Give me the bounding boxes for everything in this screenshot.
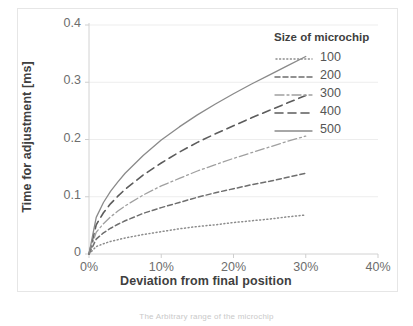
series-line-100 (89, 215, 306, 254)
series-line-300 (89, 136, 306, 254)
x-tick-label: 30% (284, 260, 328, 274)
legend-entries: 100200300400500 (274, 48, 392, 138)
legend-label-400: 400 (314, 104, 341, 118)
x-tick-label: 0% (67, 260, 111, 274)
figure: Time for adjustment [ms] Deviation from … (0, 0, 413, 326)
legend-entry-200[interactable]: 200 (274, 66, 392, 84)
legend-swatch-400 (274, 105, 314, 117)
y-tick-label: 0 (47, 245, 81, 259)
y-tick-label: 0.2 (47, 131, 81, 145)
legend-entry-500[interactable]: 500 (274, 120, 392, 138)
x-axis-title: Deviation from final position (120, 274, 390, 288)
legend-swatch-200 (274, 69, 314, 81)
series-line-200 (89, 173, 306, 254)
y-tick-label: 0.4 (47, 16, 81, 30)
legend-label-300: 300 (314, 86, 341, 100)
y-tick-label: 0.3 (47, 73, 81, 87)
legend-entry-100[interactable]: 100 (274, 48, 392, 66)
figure-caption: The Arbitrary range of the microchip (0, 312, 413, 326)
legend-label-500: 500 (314, 122, 341, 136)
legend-entry-400[interactable]: 400 (274, 102, 392, 120)
legend-swatch-500 (274, 123, 314, 135)
y-axis-title: Time for adjustment [ms] (20, 42, 34, 232)
x-tick-label: 20% (212, 260, 256, 274)
legend-swatch-300 (274, 87, 314, 99)
legend-swatch-100 (274, 51, 314, 63)
legend-title: Size of microchip (274, 31, 392, 43)
legend: Size of microchip 100200300400500 (274, 31, 392, 138)
x-tick-label: 10% (139, 260, 183, 274)
y-tick-label: 0.1 (47, 188, 81, 202)
legend-entry-300[interactable]: 300 (274, 84, 392, 102)
legend-label-200: 200 (314, 68, 341, 82)
legend-label-100: 100 (314, 50, 341, 64)
x-tick-label: 40% (356, 260, 400, 274)
